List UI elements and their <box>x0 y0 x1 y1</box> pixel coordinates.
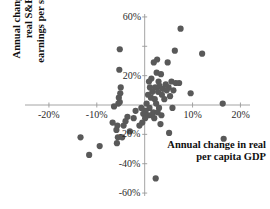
data-point <box>170 87 176 93</box>
y-tick-label: -60% <box>119 188 141 198</box>
data-point <box>177 26 183 32</box>
data-point <box>165 59 171 65</box>
y-tick-label: 60% <box>123 12 141 22</box>
data-point <box>151 115 157 121</box>
y-axis-title: Annual change in real S&P 500 earnings p… <box>11 0 46 76</box>
data-point <box>146 78 152 84</box>
data-point <box>132 108 138 114</box>
x-tick-label: 10% <box>184 110 202 120</box>
data-point <box>199 51 205 57</box>
data-point <box>169 105 175 111</box>
x-tick-label: -20% <box>38 110 60 120</box>
data-point <box>158 71 164 77</box>
data-point <box>164 87 170 93</box>
data-point <box>114 140 120 146</box>
data-point <box>116 67 122 73</box>
data-point <box>118 84 124 90</box>
data-point <box>97 143 103 149</box>
data-point <box>151 59 157 65</box>
data-point <box>167 93 173 99</box>
data-point <box>131 115 137 121</box>
y-tick-label: -20% <box>119 129 141 139</box>
data-point <box>220 100 226 106</box>
x-tick-label: -10% <box>86 110 108 120</box>
data-point <box>77 134 83 140</box>
data-point <box>166 130 172 136</box>
y-tick-label: -40% <box>119 159 141 169</box>
y-tick-label: 20% <box>123 71 141 81</box>
x-tick-label: 20% <box>231 110 249 120</box>
scatter-chart: Annual change in real S&P 500 earnings p… <box>0 0 270 209</box>
data-point <box>176 80 182 86</box>
data-point <box>157 121 163 127</box>
data-point <box>111 103 117 109</box>
data-point <box>158 112 164 118</box>
data-point <box>117 46 123 52</box>
data-point <box>86 152 92 158</box>
data-point <box>172 48 178 54</box>
x-axis-title: Annual change in real per capita GDP <box>166 139 266 163</box>
data-point <box>161 96 167 102</box>
data-point <box>153 175 159 181</box>
data-point <box>188 90 194 96</box>
